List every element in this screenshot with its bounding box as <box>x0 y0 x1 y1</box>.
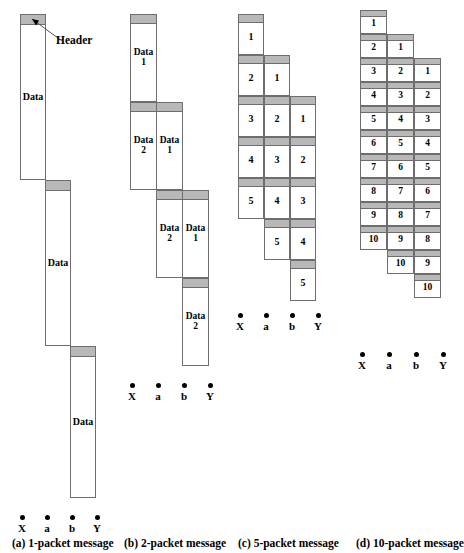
packet-label: 4 <box>425 135 430 150</box>
packet-label: 3 <box>398 87 403 102</box>
packet-header-strip <box>70 346 96 357</box>
packet-cell-d-hop1-p7: 7 <box>360 154 387 178</box>
node-dot-a <box>387 352 392 357</box>
node-label-a: a <box>379 359 399 371</box>
packet-label: 2 <box>301 149 306 166</box>
packet-label: 5 <box>301 272 306 289</box>
packet-header-strip <box>264 137 290 146</box>
packet-header-strip <box>238 55 264 64</box>
node-label-b: b <box>174 390 194 402</box>
packet-block-b-hop1-p1: Data 1 <box>130 14 157 102</box>
packet-header-strip <box>238 137 264 146</box>
node-dot-y <box>208 383 213 388</box>
node-label-a: a <box>37 522 57 534</box>
packet-label: 3 <box>425 111 430 126</box>
packet-header-strip <box>238 96 264 105</box>
packet-label: 1 <box>275 67 280 84</box>
packet-cell-d-hop2-p9: 9 <box>387 226 414 250</box>
packet-header-strip <box>264 178 290 187</box>
node-label-a: a <box>148 390 168 402</box>
node-dot-x <box>360 352 365 357</box>
packet-cell-d-hop1-p6: 6 <box>360 130 387 154</box>
node-label-b: b <box>62 522 82 534</box>
packet-label: 3 <box>371 63 376 78</box>
node-dot-y <box>316 313 321 318</box>
packet-block-b-hop2-p2: Data 2 <box>156 190 183 278</box>
packet-header-strip <box>290 96 316 105</box>
packet-label: Data 1 <box>160 136 180 156</box>
packet-cell-d-hop3-p4: 4 <box>414 130 441 154</box>
packet-label: 5 <box>398 135 403 150</box>
packet-cell-c-hop2-p2: 2 <box>264 96 290 137</box>
packet-label: Data <box>23 92 44 103</box>
packet-cell-d-hop1-p3: 3 <box>360 58 387 82</box>
packet-label: 3 <box>275 149 280 166</box>
packet-cell-d-hop2-p1: 1 <box>387 34 414 58</box>
node-label-y: Y <box>87 522 107 534</box>
packet-header-strip <box>156 102 183 112</box>
packet-cell-c-hop3-p3: 3 <box>290 178 316 219</box>
packet-label: 4 <box>275 190 280 207</box>
packet-cell-d-hop3-p7: 7 <box>414 202 441 226</box>
packet-cell-d-hop1-p10: 10 <box>360 226 387 250</box>
node-dot-x <box>20 515 25 520</box>
packet-label: Data 1 <box>186 224 206 244</box>
packet-label: 6 <box>398 159 403 174</box>
node-dot-b <box>290 313 295 318</box>
packet-block-a-hop3: Data <box>70 346 96 498</box>
packet-cell-d-hop3-p8: 8 <box>414 226 441 250</box>
packet-label: 2 <box>425 87 430 102</box>
packet-cell-c-hop1-p5: 5 <box>238 178 264 219</box>
packet-cell-c-hop3-p4: 4 <box>290 219 316 260</box>
packet-header-strip <box>264 96 290 105</box>
packet-label: 10 <box>369 231 379 246</box>
packet-cell-d-hop1-p5: 5 <box>360 106 387 130</box>
node-dot-y <box>95 515 100 520</box>
packet-label: 3 <box>249 108 254 125</box>
node-label-y: Y <box>308 320 328 332</box>
packet-header-strip <box>130 14 157 24</box>
packet-cell-d-hop2-p8: 8 <box>387 202 414 226</box>
node-dot-y <box>441 352 446 357</box>
packet-label: 1 <box>425 63 430 78</box>
panel-caption-d: (d) 10-packet message <box>356 537 464 549</box>
packet-cell-d-hop2-p6: 6 <box>387 154 414 178</box>
node-dot-x <box>238 313 243 318</box>
packet-header-strip <box>45 180 71 191</box>
panel-caption-c: (c) 5-packet message <box>238 537 339 549</box>
packet-header-strip <box>156 190 183 200</box>
packet-label: 9 <box>371 207 376 222</box>
packet-label: Data 1 <box>134 48 154 68</box>
packet-label: 3 <box>301 190 306 207</box>
packet-label: 1 <box>371 15 376 30</box>
packet-label: 2 <box>275 108 280 125</box>
node-label-x: X <box>122 390 142 402</box>
node-label-y: Y <box>200 390 220 402</box>
packet-cell-c-hop1-p1: 1 <box>238 14 264 55</box>
packet-label: 6 <box>371 135 376 150</box>
packet-cell-c-hop2-p5: 5 <box>264 219 290 260</box>
packet-label: 10 <box>396 255 406 270</box>
packet-label: 4 <box>301 231 306 248</box>
node-label-x: X <box>352 359 372 371</box>
node-dot-a <box>156 383 161 388</box>
packet-cell-d-hop3-p5: 5 <box>414 154 441 178</box>
packet-label: Data 2 <box>186 312 206 332</box>
packet-label: 4 <box>398 111 403 126</box>
packet-cell-d-hop2-p7: 7 <box>387 178 414 202</box>
packet-cell-d-hop3-p3: 3 <box>414 106 441 130</box>
packet-label: 7 <box>371 159 376 174</box>
node-label-x: X <box>230 320 250 332</box>
packet-label: 1 <box>398 39 403 54</box>
packet-cell-c-hop3-p5: 5 <box>290 260 316 301</box>
packet-label: 9 <box>425 255 430 270</box>
packet-header-strip <box>290 219 316 228</box>
packet-label: 5 <box>425 159 430 174</box>
node-label-y: Y <box>433 359 453 371</box>
packet-block-b-hop3-p1: Data 1 <box>182 190 209 278</box>
packet-label: 10 <box>423 279 433 294</box>
packet-header-strip <box>182 190 209 200</box>
packet-cell-c-hop2-p1: 1 <box>264 55 290 96</box>
node-dot-a <box>264 313 269 318</box>
